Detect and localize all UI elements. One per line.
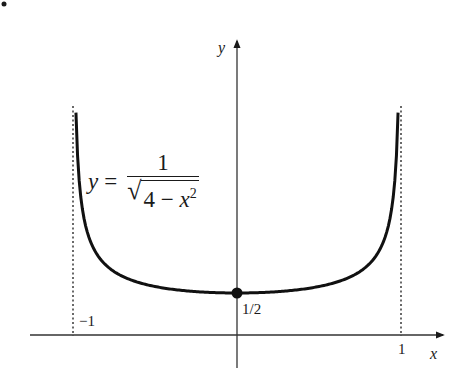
- x-axis-label: x: [429, 345, 437, 362]
- formula-radicand: 4 − x2: [141, 180, 198, 213]
- y-axis-label: y: [216, 39, 226, 57]
- chart-canvas: y x −1 1 1/2: [0, 0, 461, 387]
- formula-fraction: 1 √ 4 − x2: [127, 150, 198, 213]
- point-label-half: 1/2: [242, 301, 261, 317]
- sqrt-icon: √: [127, 177, 141, 205]
- formula-lhs: y: [88, 169, 98, 195]
- tick-label-one: 1: [398, 341, 406, 357]
- bullet-marker: [2, 2, 7, 7]
- formula-denominator: √ 4 − x2: [127, 177, 198, 213]
- formula-equals: =: [104, 169, 117, 195]
- function-formula: y = 1 √ 4 − x2: [88, 150, 199, 213]
- min-point-marker: [232, 288, 243, 299]
- tick-label-neg-one: −1: [79, 313, 95, 329]
- formula-numerator: 1: [157, 150, 169, 176]
